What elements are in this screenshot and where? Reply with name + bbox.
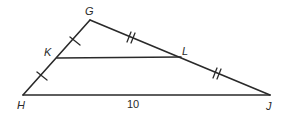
vertex-label-G: G	[85, 5, 94, 17]
vertex-label-K: K	[44, 46, 52, 58]
midsegment-KL	[57, 57, 181, 58]
triangle-diagram: G H J K L 10	[0, 0, 288, 119]
vertex-label-H: H	[17, 99, 25, 111]
vertex-label-J: J	[265, 100, 272, 112]
vertex-label-L: L	[182, 45, 188, 57]
length-label-HJ: 10	[127, 98, 139, 110]
